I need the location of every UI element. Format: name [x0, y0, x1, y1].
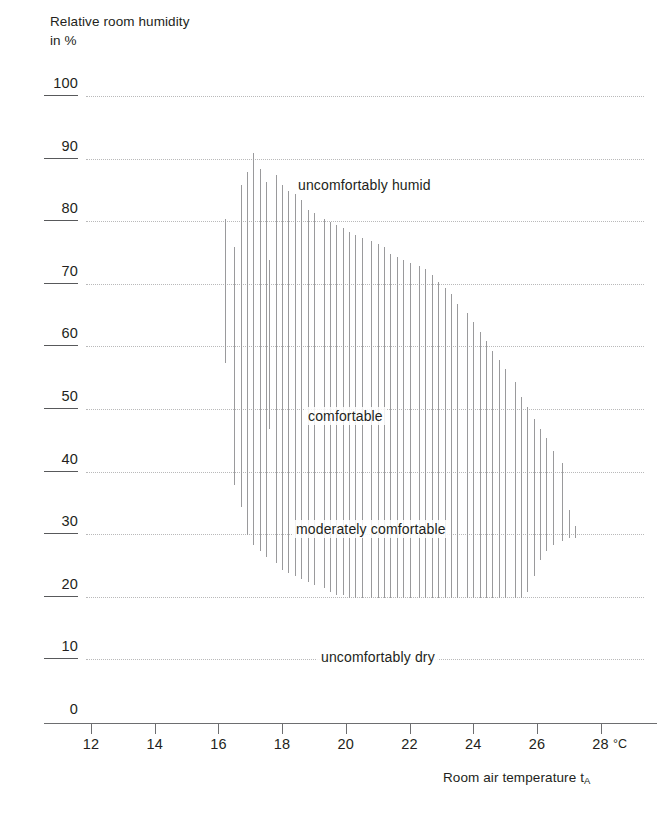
y-tick-label-90: 90: [36, 138, 78, 154]
comfort-band-line-outer: [282, 185, 283, 570]
y-tick-label-30: 30: [36, 513, 78, 529]
y-tick-rule-30: [44, 533, 78, 534]
comfort-band-line-outer: [515, 382, 516, 598]
x-tick-label-20: 20: [326, 736, 366, 752]
y-tick-label-10: 10: [36, 638, 78, 654]
comfort-band-line-inner: [432, 379, 433, 517]
gridline-20: [86, 597, 644, 599]
y-tick-label-70: 70: [36, 263, 78, 279]
comfort-band-line-inner: [403, 344, 404, 513]
y-tick-rule-50: [44, 408, 78, 409]
x-tick-16: [218, 724, 219, 734]
x-tick-24: [473, 724, 474, 734]
y-tick-label-60: 60: [36, 325, 78, 341]
x-tick-label-14: 14: [135, 736, 175, 752]
comfort-band-line-outer: [553, 451, 554, 545]
comfort-band-line-inner: [301, 279, 302, 486]
comfort-band-line-outer: [480, 332, 481, 598]
y-tick-rule-40: [44, 471, 78, 472]
comfort-band-line-inner: [410, 351, 411, 514]
comfort-band-line-outer: [425, 269, 426, 598]
y-tick-label-20: 20: [36, 576, 78, 592]
comfort-band-line-outer: [410, 263, 411, 598]
x-tick-20: [346, 724, 347, 734]
comfort-band-line-outer: [527, 407, 528, 592]
comfort-band-line-outer: [534, 419, 535, 576]
comfort-band-line-inner: [515, 485, 516, 510]
comfort-band-line-inner: [480, 441, 481, 516]
x-tick-label-16: 16: [198, 736, 238, 752]
x-tick-26: [537, 724, 538, 734]
y-axis-title-line1: Relative room humidity: [50, 14, 190, 29]
comfort-band-line-outer: [473, 322, 474, 597]
x-axis-unit-label: °C: [613, 737, 627, 751]
y-tick-rule-100: [44, 95, 78, 96]
x-tick-label-12: 12: [71, 736, 111, 752]
comfort-band-line-inner: [438, 388, 439, 516]
x-axis-title: Room air temperature tA: [443, 768, 590, 790]
comfort-band-line-outer: [575, 526, 576, 539]
region-label-3: uncomfortably dry: [317, 648, 439, 666]
comfort-band-line-inner: [349, 307, 350, 504]
comfort-band-line-inner: [330, 297, 331, 497]
comfort-band-line-outer: [492, 351, 493, 598]
gridline-80: [86, 221, 644, 223]
gridline-100: [86, 96, 644, 98]
comfort-band-line-inner: [288, 269, 289, 472]
x-tick-28: [601, 724, 602, 734]
comfort-zone-chart: Relative room humidityin % 0102030405060…: [0, 0, 659, 818]
comfort-band-line-outer: [505, 369, 506, 597]
x-tick-label-24: 24: [453, 736, 493, 752]
x-tick-12: [91, 724, 92, 734]
comfort-band-line-outer: [521, 397, 522, 597]
gridline-90: [86, 159, 644, 161]
comfort-band-line-inner: [282, 263, 283, 463]
y-tick-rule-60: [44, 345, 78, 346]
comfort-band-line-outer: [499, 360, 500, 598]
comfort-band-line-outer: [266, 182, 267, 558]
gridline-60: [86, 346, 644, 348]
y-tick-rule-20: [44, 596, 78, 597]
x-tick-label-26: 26: [517, 736, 557, 752]
comfort-band-line-outer: [260, 169, 261, 551]
x-axis-title-subscript: A: [584, 775, 590, 786]
comfort-band-line-inner: [486, 451, 487, 517]
comfort-band-line-outer: [397, 257, 398, 598]
comfort-band-line-inner: [324, 294, 325, 494]
comfort-band-line-inner: [308, 285, 309, 488]
comfort-band-line-outer: [403, 260, 404, 598]
comfort-band-line-outer: [486, 341, 487, 598]
y-tick-rule-70: [44, 283, 78, 284]
x-axis-title-text: Room air temperature t: [443, 770, 584, 785]
comfort-band-line-outer: [540, 429, 541, 560]
gridline-70: [86, 284, 644, 286]
gridline-40: [86, 472, 644, 474]
comfort-band-line-outer: [247, 172, 248, 535]
y-tick-label-80: 80: [36, 200, 78, 216]
comfort-band-line-inner: [445, 397, 446, 516]
comfort-band-line-outer: [225, 219, 226, 363]
comfort-band-line-inner: [492, 460, 493, 516]
comfort-band-line-outer: [295, 194, 296, 576]
comfort-band-line-inner: [457, 416, 458, 516]
x-tick-22: [410, 724, 411, 734]
comfort-band-line-outer: [288, 191, 289, 573]
x-tick-label-18: 18: [262, 736, 302, 752]
region-label-2: moderately comfortable: [292, 520, 450, 538]
y-tick-rule-10: [44, 658, 78, 659]
y-tick-label-100: 100: [36, 75, 78, 91]
comfort-band-line-inner: [451, 407, 452, 517]
y-tick-label-50: 50: [36, 388, 78, 404]
comfort-band-line-inner: [276, 263, 277, 448]
y-axis-title: Relative room humidityin %: [50, 12, 190, 50]
comfort-band-line-outer: [390, 254, 391, 598]
comfort-band-line-inner: [314, 288, 315, 491]
comfort-band-line-inner: [473, 435, 474, 516]
comfort-band-line-inner: [505, 473, 506, 514]
comfort-band-line-outer: [562, 463, 563, 541]
y-tick-label-0: 0: [36, 701, 78, 717]
y-tick-rule-80: [44, 220, 78, 221]
region-label-0: uncomfortably humid: [294, 176, 435, 194]
comfort-band-line-inner: [295, 272, 296, 479]
comfort-band-line-inner: [499, 466, 500, 516]
